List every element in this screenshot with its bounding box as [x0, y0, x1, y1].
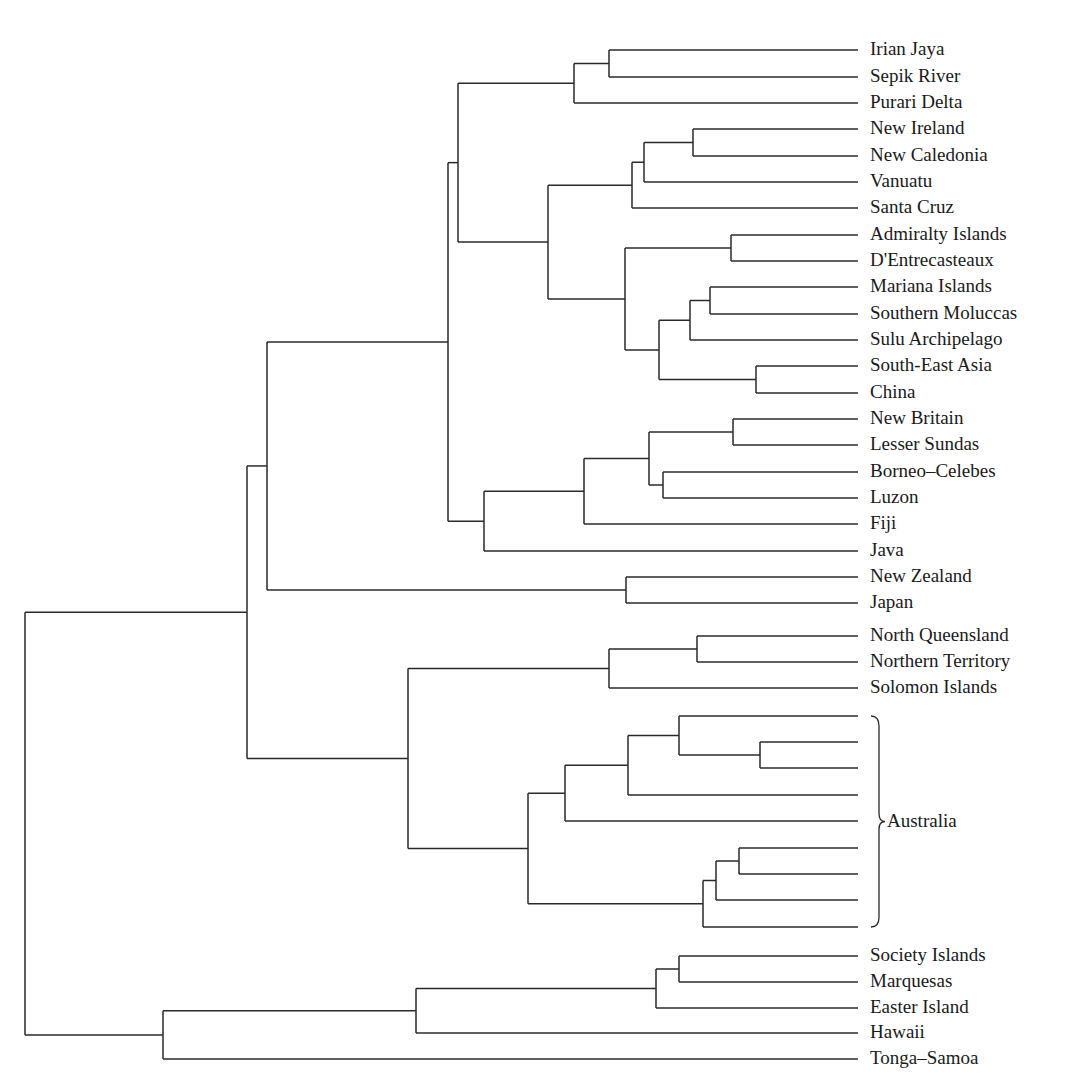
leaf-label: D'Entrecasteaux	[870, 250, 994, 270]
leaf-label: Lesser Sundas	[870, 434, 979, 454]
leaf-label: Tonga–Samoa	[870, 1048, 978, 1068]
leaf-label: Northern Territory	[870, 651, 1010, 671]
leaf-label: Solomon Islands	[870, 677, 997, 697]
leaf-label: Admiralty Islands	[870, 224, 1007, 244]
leaf-label: Sepik River	[870, 66, 960, 86]
leaf-label: Japan	[870, 592, 913, 612]
leaf-label: Irian Jaya	[870, 39, 944, 59]
leaf-label: Mariana Islands	[870, 276, 992, 296]
leaf-label: Marquesas	[870, 971, 952, 991]
leaf-label: New Britain	[870, 408, 963, 428]
leaf-label: Sulu Archipelago	[870, 329, 1002, 349]
leaf-label: New Caledonia	[870, 145, 988, 165]
leaf-label: North Queensland	[870, 625, 1009, 645]
leaf-label: Vanuatu	[870, 171, 932, 191]
leaf-label: Easter Island	[870, 997, 969, 1017]
leaf-label: Luzon	[870, 487, 919, 507]
leaf-label: Purari Delta	[870, 92, 962, 112]
leaf-label: Fiji	[870, 513, 896, 533]
leaf-label: Borneo–Celebes	[870, 461, 996, 481]
leaf-label: South-East Asia	[870, 355, 992, 375]
australia-label: Australia	[887, 811, 957, 831]
leaf-label: Southern Moluccas	[870, 303, 1017, 323]
australia-brace	[871, 716, 885, 927]
leaf-label: Santa Cruz	[870, 197, 954, 217]
leaf-label: New Ireland	[870, 118, 964, 138]
leaf-label: Society Islands	[870, 945, 986, 965]
leaf-label: Hawaii	[870, 1022, 925, 1042]
leaf-label: China	[870, 382, 915, 402]
leaf-label: New Zealand	[870, 566, 972, 586]
leaf-label: Java	[870, 540, 904, 560]
